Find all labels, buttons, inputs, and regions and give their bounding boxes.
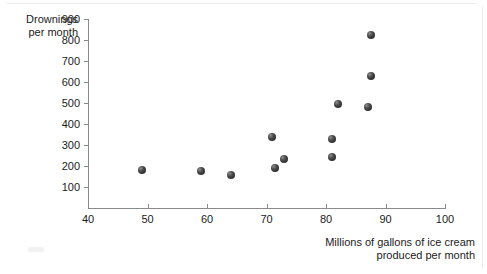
data-point xyxy=(227,171,235,179)
data-point xyxy=(197,167,205,175)
data-point xyxy=(367,31,375,39)
x-axis-title-line1: Millions of gallons of ice cream xyxy=(325,236,475,248)
data-point xyxy=(367,72,375,80)
data-point xyxy=(328,153,336,161)
x-axis-title-line2: produced per month xyxy=(377,249,475,261)
data-point xyxy=(334,100,342,108)
data-point xyxy=(138,166,146,174)
data-point xyxy=(328,135,336,143)
scatter-plot-figure: Drownings per month 10020030040050060070… xyxy=(0,0,487,274)
data-point xyxy=(268,133,276,141)
data-point xyxy=(271,164,279,172)
data-point xyxy=(280,155,288,163)
plot-area xyxy=(0,0,487,274)
data-point xyxy=(364,103,372,111)
x-axis-title: Millions of gallons of ice cream produce… xyxy=(260,236,475,262)
